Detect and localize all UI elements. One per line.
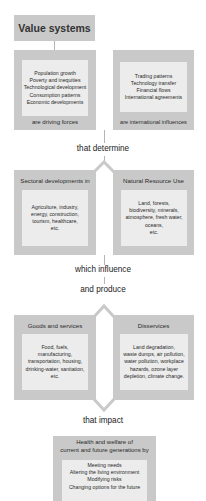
list-item: Land, forests, <box>138 200 169 207</box>
list-item: Modifying risks <box>87 476 121 483</box>
disservices-list: Land degradation, waste dumps, air pollu… <box>120 334 188 390</box>
list-item: tourism, healthcare, <box>32 218 78 225</box>
list-item: drinking-water, sanitation, <box>26 366 85 373</box>
list-item: etc. <box>51 373 59 380</box>
international-influences-box: Trading patterns Technology transfer Fin… <box>113 50 194 130</box>
list-item: Food, fuels, <box>41 344 68 351</box>
connector-line <box>54 41 55 50</box>
which-influence-label: which influence <box>0 265 206 274</box>
driving-forces-box: Population growth Poverty and inequities… <box>14 50 96 130</box>
international-influences-caption: are international influences <box>113 119 194 125</box>
health-welfare-title-2: current and future generations by <box>53 447 156 453</box>
list-item: manufacturing, <box>38 351 72 358</box>
list-item: Trading patterns <box>135 73 173 80</box>
natural-resource-use-title: Natural Resource Use <box>113 177 194 184</box>
list-item: Consumption patterns <box>30 92 81 99</box>
list-item: Agriculture, industry, <box>32 204 79 211</box>
that-determine-label: that determine <box>0 144 206 153</box>
list-item: Changing options for the future <box>69 484 140 491</box>
health-welfare-box: Health and welfare of current and future… <box>53 436 156 501</box>
list-item: energy, construction, <box>31 211 79 218</box>
driving-forces-caption: are driving forces <box>14 119 96 125</box>
list-item: Financial flows <box>136 87 170 94</box>
goods-and-services-title: Goods and services <box>14 322 96 329</box>
list-item: water pollution, workplace <box>124 358 184 365</box>
connector-line <box>104 255 105 265</box>
natural-resource-use-list: Land, forests, biodiversity, minerals, a… <box>121 190 187 246</box>
list-item: Poverty and inequities <box>29 77 80 84</box>
value-systems-title: Value systems <box>18 22 90 34</box>
connector-line <box>104 130 105 143</box>
list-item: Land degradation, <box>133 344 175 351</box>
goods-and-services-list: Food, fuels, manufacturing, transportati… <box>22 334 88 390</box>
list-item: etc. <box>150 229 158 236</box>
list-item: biodiversity, minerals, <box>129 207 179 214</box>
and-produce-label: and produce <box>0 285 206 294</box>
list-item: oceans, <box>145 222 163 229</box>
list-item: waste dumps, air pollution, <box>123 351 184 358</box>
connector-line <box>104 277 105 284</box>
list-item: Economic developments <box>27 99 84 106</box>
health-welfare-title-1: Health and welfare of <box>53 439 156 445</box>
list-item: Technological development <box>24 84 87 91</box>
health-welfare-list: Meeting needs Altering the living enviro… <box>62 460 147 501</box>
list-item: transportation, housing, <box>28 358 82 365</box>
value-systems-box: Value systems <box>14 15 95 41</box>
disservices-title: Disservices <box>113 322 194 329</box>
list-item: depletion, climate change. <box>124 373 184 380</box>
sectoral-developments-title: Sectoral developments in <box>14 177 96 184</box>
list-item: atmosphere, fresh water, <box>125 214 182 221</box>
international-influences-list: Trading patterns Technology transfer Fin… <box>120 62 187 112</box>
sectoral-developments-list: Agriculture, industry, energy, construct… <box>22 190 88 246</box>
list-item: Technology transfer <box>131 80 176 87</box>
that-impact-label: that impact <box>0 416 206 425</box>
list-item: hazards, ozone layer <box>130 366 178 373</box>
driving-forces-list: Population growth Poverty and inequities… <box>22 60 88 116</box>
list-item: etc. <box>51 225 59 232</box>
list-item: Altering the living environment <box>70 469 140 476</box>
list-item: International agreements <box>125 94 182 101</box>
list-item: Meeting needs <box>87 462 121 469</box>
list-item: Population growth <box>34 70 76 77</box>
